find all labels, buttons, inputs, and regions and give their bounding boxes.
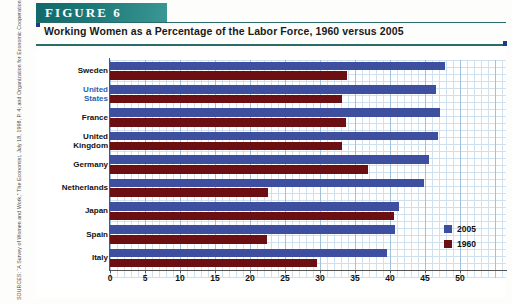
bar-row: Spain (0, 224, 512, 247)
bar-2005-sweden (110, 62, 445, 71)
title-rule-top (36, 22, 506, 23)
page-title: Working Women as a Percentage of the Lab… (44, 25, 484, 37)
bar-1960-united-states (110, 95, 342, 104)
row-label-italy: Italy (30, 253, 108, 262)
legend-label-2005: 2005 (457, 224, 476, 234)
row-label-line: United (30, 132, 108, 141)
row-label-netherlands: Netherlands (30, 183, 108, 192)
row-label-line: United (30, 85, 108, 94)
x-tick-label: 30 (315, 273, 324, 283)
bar-2005-france (110, 108, 440, 117)
legend-swatch-1960 (444, 240, 452, 248)
row-label-united-kingdom: UnitedKingdom (30, 132, 108, 150)
row-label-germany: Germany (30, 160, 108, 169)
x-tick-label: 35 (350, 273, 359, 283)
bar-row: Netherlands (0, 177, 512, 200)
bar-1960-italy (110, 259, 317, 268)
row-label-japan: Japan (30, 206, 108, 215)
bar-row: Germany (0, 154, 512, 177)
bar-2005-germany (110, 155, 429, 164)
bar-2005-japan (110, 202, 399, 211)
row-label-line: States (30, 94, 108, 103)
row-bars (110, 154, 510, 177)
row-label-line: Sweden (30, 66, 108, 75)
row-label-france: France (30, 113, 108, 122)
row-label-sweden: Sweden (30, 66, 108, 75)
bar-1960-france (110, 118, 346, 127)
row-label-line: Kingdom (30, 141, 108, 150)
x-tick-label: 40 (385, 273, 394, 283)
bar-2005-spain (110, 225, 395, 234)
bar-2005-united-kingdom (110, 132, 438, 141)
bar-1960-netherlands (110, 188, 268, 197)
bar-1960-germany (110, 165, 368, 174)
legend-label-1960: 1960 (457, 239, 476, 249)
x-tick-label: 50 (455, 273, 464, 283)
figure-banner-label: FIGURE 6 (36, 3, 167, 22)
legend-item-2005: 2005 (444, 222, 500, 235)
bar-row: UnitedStates (0, 83, 512, 106)
row-bars (110, 60, 510, 83)
x-tick-label: 25 (280, 273, 289, 283)
legend-item-1960: 1960 (444, 237, 500, 250)
x-tick-label: 10 (175, 273, 184, 283)
row-bars (110, 177, 510, 200)
bar-1960-japan (110, 212, 394, 221)
x-tick-label: 5 (143, 273, 148, 283)
row-label-spain: Spain (30, 230, 108, 239)
row-bars (110, 130, 510, 153)
bar-row: UnitedKingdom (0, 130, 512, 153)
legend-swatch-2005 (444, 225, 452, 233)
bar-row: France (0, 107, 512, 130)
row-label-line: Italy (30, 253, 108, 262)
x-tick-label: 20 (245, 273, 254, 283)
row-label-line: Netherlands (30, 183, 108, 192)
row-bars (110, 107, 510, 130)
figure-banner: FIGURE 6 (36, 3, 167, 22)
title-rule-end-cap (503, 41, 507, 46)
bar-row: Japan (0, 200, 512, 223)
bar-2005-italy (110, 249, 387, 258)
bar-1960-sweden (110, 71, 347, 80)
chart-legend: 20051960 (444, 222, 500, 252)
bar-1960-spain (110, 235, 267, 244)
bar-row: Sweden (0, 60, 512, 83)
row-label-line: Japan (30, 206, 108, 215)
bar-2005-united-states (110, 85, 436, 94)
row-label-line: Germany (30, 160, 108, 169)
bar-2005-netherlands (110, 179, 424, 188)
row-label-line: Spain (30, 230, 108, 239)
x-tick-label: 15 (210, 273, 219, 283)
row-label-united-states: UnitedStates (30, 85, 108, 103)
bar-row: Italy (0, 247, 512, 270)
row-label-line: France (30, 113, 108, 122)
row-bars (110, 200, 510, 223)
x-tick-label: 45 (420, 273, 429, 283)
title-rule-bottom (36, 44, 506, 46)
figure-page: SOURCES: “A Survey of Women and Work,” T… (0, 0, 512, 304)
row-bars (110, 83, 510, 106)
bar-1960-united-kingdom (110, 142, 342, 151)
x-tick-label: 0 (108, 273, 113, 283)
